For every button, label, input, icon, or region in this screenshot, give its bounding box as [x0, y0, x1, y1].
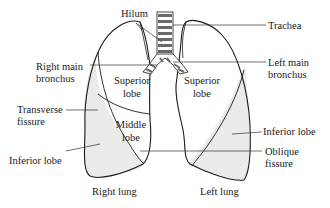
label-middle-lobe-2: lobe	[111, 132, 151, 143]
label-left-superior-lobe-2: lobe	[180, 88, 224, 99]
label-transverse-fissure-1: Transverse	[17, 104, 63, 115]
bronchi	[143, 54, 188, 74]
label-left-main-bronchus-1: Left main	[268, 57, 309, 68]
label-left-superior-lobe-1: Superior	[180, 75, 224, 86]
label-right-lung: Right lung	[92, 186, 137, 197]
label-hilum: Hilum	[121, 8, 148, 19]
label-right-main-bronchus-2: bronchus	[36, 73, 75, 84]
right-inferior-lobe-shade	[84, 54, 145, 178]
label-middle-lobe-1: Middle	[111, 119, 151, 130]
label-right-superior-lobe-2: lobe	[110, 88, 154, 99]
label-right-superior-lobe-1: Superior	[110, 75, 154, 86]
label-left-inferior-lobe: Inferior lobe	[263, 126, 316, 137]
label-right-inferior-lobe: Inferior lobe	[9, 155, 62, 166]
label-right-main-bronchus-1: Right main	[36, 61, 83, 72]
label-left-lung: Left lung	[200, 186, 239, 197]
label-transverse-fissure-2: fissure	[17, 116, 45, 127]
label-oblique-fissure-2: fissure	[265, 158, 293, 169]
trachea	[157, 12, 173, 56]
label-left-main-bronchus-2: bronchus	[268, 69, 307, 80]
right-hilum	[140, 22, 148, 60]
label-oblique-fissure-1: Oblique	[265, 146, 299, 157]
lung-diagram: Hilum Trachea Right main bronchus Left m…	[0, 0, 330, 208]
label-trachea: Trachea	[268, 20, 301, 31]
